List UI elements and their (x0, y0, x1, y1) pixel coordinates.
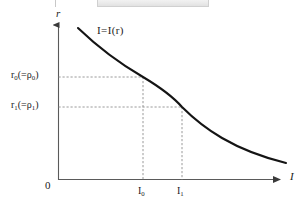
y-tick-r0-paren-open: (= (18, 69, 27, 80)
x-tick-i1-subscript: 1 (180, 190, 183, 197)
y-tick-label-r1: r1(=ρ1) (11, 100, 38, 110)
y-tick-r1-paren-close: ) (35, 99, 38, 110)
y-tick-r1-rho: ρ (27, 99, 32, 110)
x-tick-label-i0: I0 (138, 186, 145, 196)
x-tick-i0-subscript: 0 (141, 190, 144, 197)
y-axis-label: r (56, 8, 60, 19)
y-tick-label-r0: r0(=ρ0) (11, 70, 38, 80)
y-tick-r1-paren-open: (= (18, 99, 27, 110)
origin-label: 0 (45, 180, 51, 191)
y-tick-r0-rho-subscript: 0 (32, 74, 35, 81)
investment-demand-curve-figure: r I 0 I=I(r) r0(=ρ0) r1(=ρ1) I0 I1 (0, 0, 307, 208)
y-tick-r1-subscript: 1 (14, 104, 17, 111)
curve-i-of-r (78, 28, 286, 163)
y-tick-r0-rho: ρ (27, 69, 32, 80)
plot-canvas (0, 0, 307, 208)
y-tick-r0-paren-close: ) (35, 69, 38, 80)
x-tick-label-i1: I1 (177, 186, 184, 196)
curve-label: I=I(r) (97, 25, 124, 36)
y-tick-r0-subscript: 0 (14, 74, 17, 81)
x-axis-label: I (290, 171, 294, 182)
y-tick-r1-rho-subscript: 1 (32, 104, 35, 111)
